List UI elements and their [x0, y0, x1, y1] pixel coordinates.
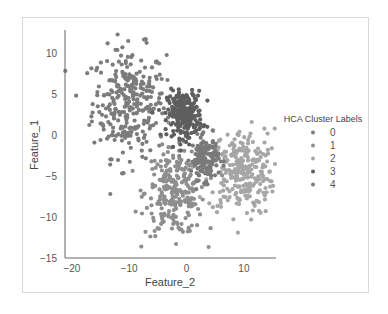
legend-label: 3	[330, 166, 336, 177]
x-axis-label: Feature_2	[145, 276, 195, 288]
legend-marker-icon	[311, 170, 315, 174]
legend-label: 1	[330, 140, 336, 151]
y-tick-label: −5	[46, 171, 58, 182]
legend-title: HCA Cluster Labels	[284, 114, 363, 124]
x-tick-labels: −20−10010	[63, 263, 249, 274]
x-tick-label: 0	[184, 263, 190, 274]
legend-label: 4	[330, 179, 336, 190]
legend-marker-icon	[311, 183, 315, 187]
legend-label: 0	[330, 127, 336, 138]
legend-marker-icon	[311, 144, 315, 148]
y-tick-label: 0	[51, 130, 57, 141]
legend: HCA Cluster Labels 01234	[284, 114, 363, 190]
cluster-2-points	[191, 120, 278, 235]
legend-marker-icon	[311, 131, 315, 135]
x-tick-label: 10	[238, 263, 250, 274]
x-tick-label: −10	[121, 263, 138, 274]
y-tick-label: −15	[40, 253, 57, 264]
y-tick-label: −10	[40, 212, 57, 223]
legend-label: 2	[330, 153, 336, 164]
x-tick-label: −20	[63, 263, 80, 274]
y-tick-label: 10	[46, 48, 58, 59]
scatter-chart: 1050−5−10−15 −20−10010 Feature_2 Feature…	[0, 0, 388, 314]
y-tick-labels: 1050−5−10−15	[40, 48, 57, 264]
scatter-points	[63, 32, 277, 249]
y-axis-label: Feature_1	[28, 120, 40, 170]
y-tick-label: 5	[51, 89, 57, 100]
legend-marker-icon	[311, 157, 315, 161]
